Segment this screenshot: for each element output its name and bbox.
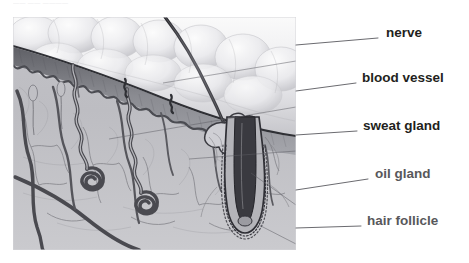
leader-line-hair-follicle bbox=[296, 226, 361, 228]
label-leader-lines bbox=[0, 0, 469, 263]
leader-line-oil-gland bbox=[296, 179, 368, 190]
figure-page: —— —— ———— bbox=[0, 0, 469, 263]
leader-line-blood-vessel bbox=[296, 83, 356, 91]
leader-line-sweat-gland bbox=[296, 131, 357, 135]
leader-line-nerve bbox=[296, 38, 378, 45]
